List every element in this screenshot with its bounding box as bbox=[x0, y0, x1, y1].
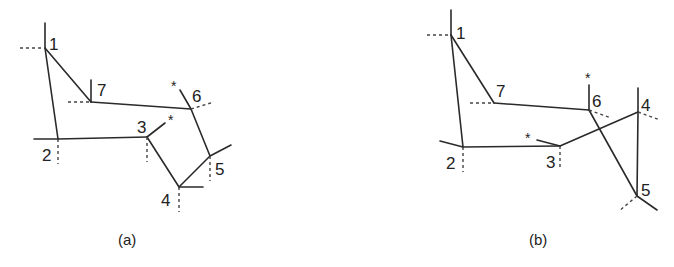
node-label-3: 3 bbox=[137, 118, 146, 137]
panel-b: * * 1 2 3 4 5 6 7 (b) bbox=[427, 10, 660, 248]
edge-3-4 bbox=[147, 137, 179, 187]
edge-7-6 bbox=[91, 102, 191, 109]
stub-3-star bbox=[537, 140, 560, 146]
node-label-7: 7 bbox=[97, 81, 106, 100]
panel-a: * * 1 2 3 4 5 6 7 (a) bbox=[20, 23, 231, 248]
stub-5-right bbox=[210, 145, 231, 156]
node-label-4: 4 bbox=[161, 191, 170, 210]
edge-7-6 bbox=[494, 103, 589, 110]
node-label-1: 1 bbox=[49, 35, 58, 54]
edge-4-5 bbox=[179, 156, 210, 187]
star-marker-6: * bbox=[171, 78, 177, 94]
stub-5-left-dashed bbox=[619, 196, 637, 211]
node-label-5: 5 bbox=[215, 160, 224, 179]
star-marker-3: * bbox=[525, 130, 531, 146]
node-label-5: 5 bbox=[641, 181, 650, 200]
node-label-2: 2 bbox=[446, 154, 455, 173]
node-label-7: 7 bbox=[496, 82, 505, 101]
star-marker-3: * bbox=[168, 112, 174, 128]
node-label-3: 3 bbox=[546, 153, 555, 172]
panel-b-caption: (b) bbox=[529, 231, 547, 248]
edge-5-6 bbox=[191, 109, 210, 156]
node-label-1: 1 bbox=[456, 24, 465, 43]
stub-3-star bbox=[147, 123, 165, 137]
edge-2-3 bbox=[58, 137, 147, 139]
edge-2-3 bbox=[463, 146, 560, 147]
panel-a-caption: (a) bbox=[118, 231, 136, 248]
node-label-6: 6 bbox=[192, 87, 201, 106]
edge-4-5 bbox=[637, 112, 638, 196]
node-label-2: 2 bbox=[42, 146, 51, 165]
stub-6-star bbox=[180, 90, 191, 109]
star-marker-6: * bbox=[585, 70, 591, 86]
node-label-4: 4 bbox=[641, 96, 650, 115]
stub-2-left bbox=[440, 141, 463, 147]
figure-canvas: * * 1 2 3 4 5 6 7 (a) bbox=[0, 0, 674, 267]
node-label-6: 6 bbox=[592, 92, 601, 111]
